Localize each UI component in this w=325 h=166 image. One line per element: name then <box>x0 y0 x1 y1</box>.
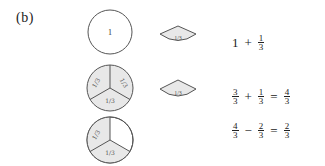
eq3-fraction-b: 23 <box>258 122 265 139</box>
eq3-op-minus: − <box>245 123 252 139</box>
sector-label-bottom: 1/3 <box>105 97 115 104</box>
thirds-circle-full: 1/3 1/3 1/3 <box>87 65 133 111</box>
third-wedge-1: 1/3 <box>160 26 196 41</box>
eq2-op-equals: = <box>270 89 277 105</box>
eq3-fraction-result: 23 <box>284 122 291 139</box>
fraction-diagram: 1 1/3 1/3 1/3 1/3 1/3 1/3 1/3 <box>0 0 325 166</box>
eq2-op-plus: + <box>245 89 252 105</box>
equation-row-1: 1 + 13 <box>232 34 264 51</box>
eq1-int: 1 <box>232 35 239 51</box>
whole-circle: 1 <box>88 10 132 54</box>
equation-row-3: 43 − 23 = 23 <box>232 122 290 139</box>
eq2-fraction-b: 13 <box>258 88 265 105</box>
third-wedge-1-label: 1/3 <box>174 35 182 41</box>
eq1-op-plus: + <box>245 35 252 51</box>
eq3-op-equals: = <box>270 123 277 139</box>
equation-row-2: 33 + 13 = 43 <box>232 88 290 105</box>
third-wedge-2: 1/3 <box>160 80 196 96</box>
eq1-fraction: 13 <box>258 34 265 51</box>
whole-circle-label: 1 <box>108 28 112 37</box>
eq2-fraction-a: 33 <box>232 88 239 105</box>
sector-label-bottom-partial: 1/3 <box>105 149 115 156</box>
eq3-fraction-a: 43 <box>232 122 239 139</box>
thirds-circle-partial: 1/3 1/3 <box>87 117 133 163</box>
eq2-fraction-result: 43 <box>284 88 291 105</box>
third-wedge-2-label: 1/3 <box>174 90 182 96</box>
